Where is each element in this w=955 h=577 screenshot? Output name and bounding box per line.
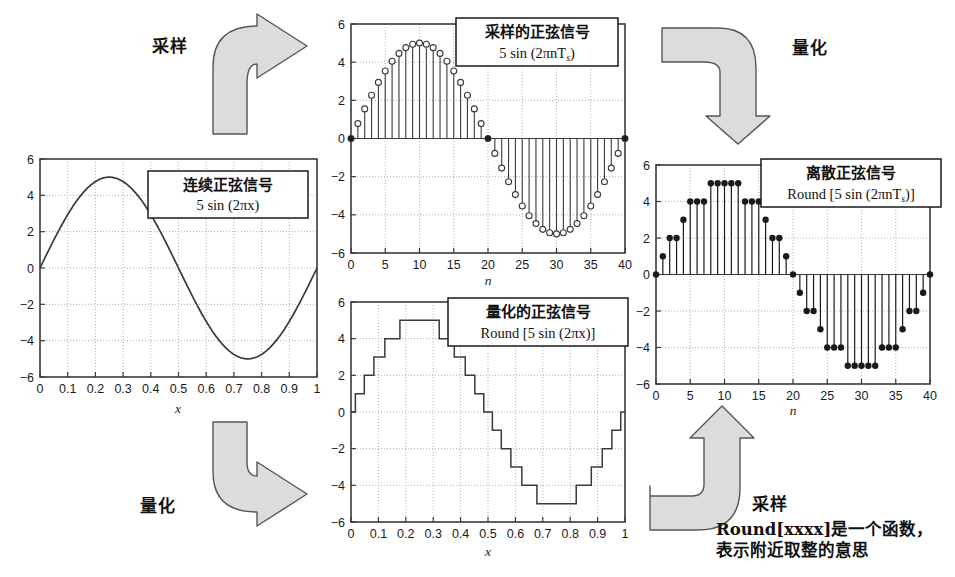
sample-marker — [403, 45, 409, 51]
svg-text:35: 35 — [889, 389, 903, 403]
caption-en: 5 sin (2πnTs) — [499, 45, 575, 63]
sample-marker — [458, 79, 464, 85]
svg-text:2: 2 — [338, 94, 345, 108]
arrow-label-sampling-top-left: 采样 — [152, 32, 188, 57]
sample-marker — [369, 92, 375, 98]
svg-text:5: 5 — [382, 258, 389, 272]
svg-text:25: 25 — [820, 389, 834, 403]
sample-marker — [694, 198, 700, 204]
sample-marker — [588, 203, 594, 209]
svg-text:−6: −6 — [20, 371, 34, 385]
x-axis-label: n — [790, 403, 797, 418]
arrow-shape — [213, 422, 307, 526]
sample-marker — [499, 165, 505, 171]
arrow-shape — [213, 14, 307, 134]
sample-marker — [526, 213, 532, 219]
svg-text:4: 4 — [338, 56, 345, 70]
sample-marker — [735, 180, 741, 186]
svg-text:0.6: 0.6 — [198, 382, 215, 396]
caption-cn: 采样的正弦信号 — [484, 23, 590, 41]
sample-marker — [769, 235, 775, 241]
sample-marker — [906, 308, 912, 314]
svg-text:−4: −4 — [331, 208, 345, 222]
sample-marker — [886, 344, 892, 350]
sample-marker — [865, 363, 871, 369]
arrow-quantization-top-right — [660, 16, 790, 146]
caption-box-discrete: 离散正弦信号 Round [5 sin (2πnTs)] — [761, 159, 941, 207]
sample-marker — [728, 180, 734, 186]
arrow-label-quantization-bottom-left: 量化 — [140, 492, 176, 517]
sample-marker — [451, 68, 457, 74]
sample-marker — [601, 179, 607, 185]
svg-text:2: 2 — [643, 232, 650, 246]
svg-text:20: 20 — [481, 258, 495, 272]
sample-marker — [687, 198, 693, 204]
sample-marker — [519, 203, 525, 209]
svg-text:0.9: 0.9 — [589, 527, 606, 541]
chart-continuous-sine: −6−4−2024600.10.20.30.40.50.60.70.80.91 … — [0, 145, 330, 420]
svg-text:−2: −2 — [20, 298, 34, 312]
svg-text:0: 0 — [338, 132, 345, 146]
sample-marker — [560, 230, 566, 236]
svg-text:1: 1 — [622, 527, 629, 541]
svg-text:0.4: 0.4 — [452, 527, 469, 541]
sample-marker — [899, 326, 905, 332]
sample-marker — [595, 192, 601, 198]
sample-marker — [533, 221, 539, 227]
svg-text:15: 15 — [447, 258, 461, 272]
figure-canvas: −6−4−2024600.10.20.30.40.50.60.70.80.91 … — [0, 0, 955, 577]
svg-text:0.2: 0.2 — [87, 382, 104, 396]
footnote-line-1: Round[xxxx]是一个函数， — [716, 519, 933, 540]
svg-text:0: 0 — [348, 258, 355, 272]
sample-marker — [362, 106, 368, 112]
sample-marker — [622, 136, 628, 142]
caption-box-continuous: 连续正弦信号 5 sin (2πx) — [148, 171, 308, 218]
svg-text:25: 25 — [515, 258, 529, 272]
caption-cn: 量化的正弦信号 — [486, 303, 591, 321]
svg-text:2: 2 — [338, 369, 345, 383]
sample-marker — [464, 92, 470, 98]
svg-text:0.3: 0.3 — [114, 382, 131, 396]
chart-quantized-sine-svg: −6−4−2024600.10.20.30.40.50.60.70.80.91 … — [320, 290, 650, 577]
caption-cn: 连续正弦信号 — [183, 176, 273, 194]
svg-text:0.2: 0.2 — [397, 527, 414, 541]
sample-marker — [845, 363, 851, 369]
sample-marker — [913, 308, 919, 314]
sample-marker — [680, 217, 686, 223]
sample-marker — [749, 198, 755, 204]
sample-marker — [824, 344, 830, 350]
sample-marker — [790, 271, 796, 277]
svg-text:−2: −2 — [636, 305, 650, 319]
svg-text:35: 35 — [584, 258, 598, 272]
sample-marker — [721, 180, 727, 186]
sample-marker — [920, 290, 926, 296]
sample-marker — [574, 221, 580, 227]
svg-text:6: 6 — [27, 153, 34, 167]
sample-marker — [375, 79, 381, 85]
caption-en: Round [5 sin (2πnTs)] — [787, 186, 914, 204]
sample-marker — [615, 150, 621, 156]
chart-sampled-sine-svg: −6−4−202460510152025303540 采样的正弦信号 5 sin… — [320, 0, 650, 290]
sample-marker — [540, 226, 546, 232]
svg-text:0.7: 0.7 — [534, 527, 551, 541]
sample-marker — [708, 180, 714, 186]
svg-text:−4: −4 — [20, 334, 34, 348]
sample-marker — [804, 308, 810, 314]
sample-marker — [410, 41, 416, 47]
caption-box-sampled: 采样的正弦信号 5 sin (2πnTs) — [456, 18, 618, 66]
svg-text:0.9: 0.9 — [281, 382, 298, 396]
arrow-quantization-bottom-left — [195, 420, 335, 550]
sample-marker — [355, 121, 361, 127]
chart-discrete-sine-svg: −6−4−202460510152025303540 离散正弦信号 Round … — [630, 150, 955, 430]
svg-text:0.5: 0.5 — [479, 527, 496, 541]
sample-marker — [742, 198, 748, 204]
x-axis-label: x — [484, 544, 491, 559]
chart-quantized-sine: −6−4−2024600.10.20.30.40.50.60.70.80.91 … — [320, 290, 650, 577]
sample-marker — [382, 68, 388, 74]
svg-text:6: 6 — [338, 296, 345, 310]
svg-text:−2: −2 — [331, 170, 345, 184]
sample-marker — [348, 136, 354, 142]
svg-text:0.6: 0.6 — [507, 527, 524, 541]
sample-marker — [714, 180, 720, 186]
caption-en: Round [5 sin (2πx)] — [481, 325, 596, 342]
